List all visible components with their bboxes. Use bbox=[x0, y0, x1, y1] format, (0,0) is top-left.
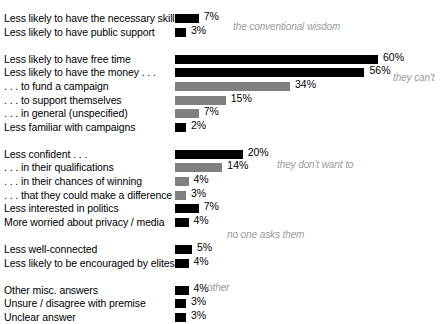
bar-fill bbox=[175, 299, 186, 308]
bar-fill bbox=[175, 204, 199, 213]
bar-fill bbox=[175, 55, 378, 64]
bar-track bbox=[175, 286, 189, 295]
group-annotation: no one asks them bbox=[227, 228, 304, 241]
bar-row: Less interested in politics7% bbox=[0, 202, 447, 215]
bar-row-label: Unsure / disagree with premise bbox=[4, 297, 146, 310]
bar-row: Less likely to be encouraged by elites4% bbox=[0, 257, 447, 270]
bar-row: Less well-connected5% bbox=[0, 243, 447, 256]
bar-row-label: Unclear answer bbox=[4, 311, 76, 324]
bar-row-label: Less confident . . . bbox=[4, 148, 87, 161]
bar-value-label: 4% bbox=[194, 255, 209, 268]
bar-row: . . . to support themselves15% bbox=[0, 94, 447, 107]
bar-row: Unsure / disagree with premise3% bbox=[0, 297, 447, 310]
bar-value-label: 34% bbox=[295, 78, 316, 91]
bar-fill bbox=[175, 28, 186, 37]
bar-row-label: . . . that they could make a difference bbox=[4, 189, 172, 202]
bar-track bbox=[175, 163, 222, 172]
bar-row-label: . . . in their qualifications bbox=[4, 161, 114, 174]
group-annotation: the conventional wisdom bbox=[233, 20, 340, 33]
bar-track bbox=[175, 14, 199, 23]
bar-row: . . . to fund a campaign34% bbox=[0, 80, 447, 93]
bar-value-label: 7% bbox=[204, 200, 219, 213]
bar-row: Less familiar with campaigns2% bbox=[0, 121, 447, 134]
bar-row: More worried about privacy / media4% bbox=[0, 216, 447, 229]
bar-row-label: . . . to fund a campaign bbox=[4, 80, 108, 93]
bar-fill bbox=[175, 313, 186, 322]
bar-row-label: Other misc. answers bbox=[4, 284, 98, 297]
bar-track bbox=[175, 28, 186, 37]
bar-fill bbox=[175, 286, 189, 295]
bar-row: . . . in their qualifications14% bbox=[0, 161, 447, 174]
bar-track bbox=[175, 150, 243, 159]
bar-fill bbox=[175, 259, 189, 268]
bar-row: Less likely to have the necessary skills… bbox=[0, 12, 447, 25]
bar-value-label: 3% bbox=[191, 309, 206, 322]
bar-fill bbox=[175, 123, 186, 132]
bar-row-label: Less likely to have the necessary skills bbox=[4, 12, 180, 25]
bar-row: . . . in general (unspecified)7% bbox=[0, 107, 447, 120]
bar-row-label: Less likely to have the money . . . bbox=[4, 66, 156, 79]
bar-track bbox=[175, 313, 186, 322]
bar-value-label: 3% bbox=[191, 24, 206, 37]
bar-row: Less likely to have public support3% bbox=[0, 26, 447, 39]
bar-row-label: Less familiar with campaigns bbox=[4, 121, 135, 134]
bar-track bbox=[175, 299, 186, 308]
bar-fill bbox=[175, 82, 290, 91]
bar-value-label: 2% bbox=[191, 119, 206, 132]
bar-track bbox=[175, 109, 199, 118]
bar-track bbox=[175, 55, 378, 64]
bar-track bbox=[175, 191, 186, 200]
bar-row-label: Less well-connected bbox=[4, 243, 97, 256]
bar-value-label: 14% bbox=[227, 159, 248, 172]
bar-track bbox=[175, 123, 186, 132]
bar-row: Unclear answer3% bbox=[0, 311, 447, 324]
bar-fill bbox=[175, 14, 199, 23]
group-annotation: other bbox=[207, 281, 229, 294]
bar-value-label: 60% bbox=[383, 51, 404, 64]
bar-fill bbox=[175, 96, 226, 105]
bar-row-label: Less likely to have public support bbox=[4, 26, 155, 39]
bar-track bbox=[175, 245, 192, 254]
bar-track bbox=[175, 96, 226, 105]
bar-row-label: Less likely to have free time bbox=[4, 53, 131, 66]
bar-value-label: 15% bbox=[231, 92, 252, 105]
bar-fill bbox=[175, 163, 222, 172]
bar-track bbox=[175, 82, 290, 91]
bar-row-label: . . . in general (unspecified) bbox=[4, 107, 128, 120]
bar-fill bbox=[175, 109, 199, 118]
bar-value-label: 5% bbox=[197, 241, 212, 254]
group-annotation: they don't want to bbox=[277, 158, 353, 171]
group-annotation: they can't bbox=[393, 71, 435, 84]
bar-value-label: 3% bbox=[191, 187, 206, 200]
bar-value-label: 7% bbox=[204, 10, 219, 23]
bar-value-label: 7% bbox=[204, 105, 219, 118]
bar-value-label: 20% bbox=[248, 146, 269, 159]
bar-row-label: Less interested in politics bbox=[4, 202, 119, 215]
bar-value-label: 4% bbox=[194, 214, 209, 227]
bar-row-label: . . . in their chances of winning bbox=[4, 175, 142, 188]
bar-fill bbox=[175, 218, 189, 227]
bar-row-label: More worried about privacy / media bbox=[4, 216, 165, 229]
bar-value-label: 4% bbox=[194, 173, 209, 186]
bar-fill bbox=[175, 68, 364, 77]
bar-row: . . . in their chances of winning4% bbox=[0, 175, 447, 188]
bar-row: Less likely to have the money . . .56% bbox=[0, 66, 447, 79]
bar-fill bbox=[175, 177, 189, 186]
bar-track bbox=[175, 177, 189, 186]
bar-value-label: 3% bbox=[191, 295, 206, 308]
bar-fill bbox=[175, 245, 192, 254]
bar-track bbox=[175, 259, 189, 268]
bar-track bbox=[175, 218, 189, 227]
bar-row-label: . . . to support themselves bbox=[4, 94, 122, 107]
bar-track bbox=[175, 68, 364, 77]
bar-value-label: 56% bbox=[369, 64, 390, 77]
bar-track bbox=[175, 204, 199, 213]
bar-fill bbox=[175, 191, 186, 200]
bar-row: Less confident . . .20% bbox=[0, 148, 447, 161]
bar-fill bbox=[175, 150, 243, 159]
bar-row: . . . that they could make a difference3… bbox=[0, 189, 447, 202]
bar-row-label: Less likely to be encouraged by elites bbox=[4, 257, 175, 270]
